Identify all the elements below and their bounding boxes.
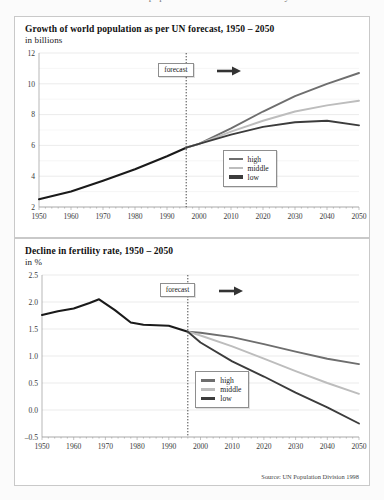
fertility-chart-subtitle: in % bbox=[25, 257, 369, 267]
svg-text:2030: 2030 bbox=[287, 212, 302, 221]
fertility-chart-title: Decline in fertility rate, 1950 – 2050 bbox=[25, 246, 369, 256]
legend-item-low: low bbox=[201, 394, 241, 403]
fertility-chart-area: –0.50.00.51.01.52.02.5195019601970198019… bbox=[15, 269, 369, 465]
legend-swatch-high bbox=[201, 379, 215, 382]
legend-label-high: high bbox=[248, 155, 262, 164]
population-legend: high middle low bbox=[223, 150, 277, 187]
svg-text:2.5: 2.5 bbox=[29, 271, 39, 280]
svg-text:1970: 1970 bbox=[98, 442, 113, 451]
svg-text:2020: 2020 bbox=[256, 442, 271, 451]
svg-text:2040: 2040 bbox=[320, 442, 335, 451]
legend-item-low: low bbox=[229, 173, 269, 182]
svg-text:2.0: 2.0 bbox=[29, 298, 39, 307]
svg-text:2040: 2040 bbox=[319, 212, 334, 221]
svg-text:2000: 2000 bbox=[193, 442, 208, 451]
population-forecast-arrow-icon bbox=[216, 66, 242, 76]
legend-item-middle: middle bbox=[201, 385, 241, 394]
cut-off-header-text: Growth of world population and decline i… bbox=[0, 0, 384, 2]
svg-text:2050: 2050 bbox=[351, 442, 366, 451]
svg-text:1950: 1950 bbox=[31, 212, 46, 221]
legend-swatch-high bbox=[229, 158, 243, 161]
svg-text:8: 8 bbox=[31, 110, 35, 119]
svg-text:4: 4 bbox=[31, 172, 35, 181]
cut-off-header-strip: Growth of world population and decline i… bbox=[0, 0, 384, 14]
population-chart-subtitle: in billions bbox=[25, 35, 369, 45]
fertility-legend: high middle low bbox=[195, 371, 249, 408]
legend-swatch-low bbox=[229, 175, 243, 178]
svg-text:2000: 2000 bbox=[191, 212, 206, 221]
fertility-forecast-label: forecast bbox=[160, 283, 195, 297]
legend-swatch-middle bbox=[229, 167, 243, 170]
legend-label-low: low bbox=[248, 173, 259, 182]
fertility-chart-svg: –0.50.00.51.01.52.02.5195019601970198019… bbox=[15, 269, 369, 465]
svg-text:2010: 2010 bbox=[223, 212, 238, 221]
svg-text:1980: 1980 bbox=[130, 442, 145, 451]
svg-text:6: 6 bbox=[31, 141, 35, 150]
svg-text:12: 12 bbox=[27, 49, 35, 58]
svg-text:1950: 1950 bbox=[34, 442, 49, 451]
legend-item-high: high bbox=[229, 155, 269, 164]
svg-text:–0.5: –0.5 bbox=[24, 433, 38, 442]
legend-swatch-middle bbox=[201, 388, 215, 391]
fertility-forecast-arrow-icon bbox=[218, 286, 244, 296]
svg-text:1990: 1990 bbox=[159, 212, 174, 221]
svg-text:1.0: 1.0 bbox=[29, 352, 39, 361]
legend-label-high: high bbox=[220, 376, 234, 385]
svg-text:1980: 1980 bbox=[127, 212, 142, 221]
fertility-chart-panel: Decline in fertility rate, 1950 – 2050 i… bbox=[14, 238, 370, 486]
legend-label-low: low bbox=[220, 394, 231, 403]
svg-text:10: 10 bbox=[27, 80, 35, 89]
svg-text:1.5: 1.5 bbox=[29, 325, 39, 334]
svg-text:0.5: 0.5 bbox=[29, 379, 39, 388]
svg-text:2010: 2010 bbox=[225, 442, 240, 451]
svg-text:1990: 1990 bbox=[161, 442, 176, 451]
svg-text:0.0: 0.0 bbox=[29, 406, 39, 415]
screenshot-root: Growth of world population and decline i… bbox=[0, 0, 384, 500]
population-chart-area: 2468101219501960197019801990200020102020… bbox=[15, 47, 369, 233]
legend-item-high: high bbox=[201, 376, 241, 385]
svg-text:2030: 2030 bbox=[288, 442, 303, 451]
population-chart-panel: Growth of world population as per UN for… bbox=[14, 16, 370, 238]
source-note: Source: UN Population Division 1998 bbox=[261, 473, 359, 480]
svg-text:1960: 1960 bbox=[63, 212, 78, 221]
svg-text:1960: 1960 bbox=[66, 442, 81, 451]
svg-text:2020: 2020 bbox=[255, 212, 270, 221]
legend-label-middle: middle bbox=[248, 164, 269, 173]
population-forecast-label: forecast bbox=[158, 63, 193, 77]
svg-text:2: 2 bbox=[31, 203, 35, 212]
svg-text:2050: 2050 bbox=[351, 212, 366, 221]
svg-text:1970: 1970 bbox=[95, 212, 110, 221]
legend-swatch-low bbox=[201, 397, 215, 400]
population-chart-title: Growth of world population as per UN for… bbox=[25, 24, 369, 34]
legend-item-middle: middle bbox=[229, 164, 269, 173]
legend-label-middle: middle bbox=[220, 385, 241, 394]
